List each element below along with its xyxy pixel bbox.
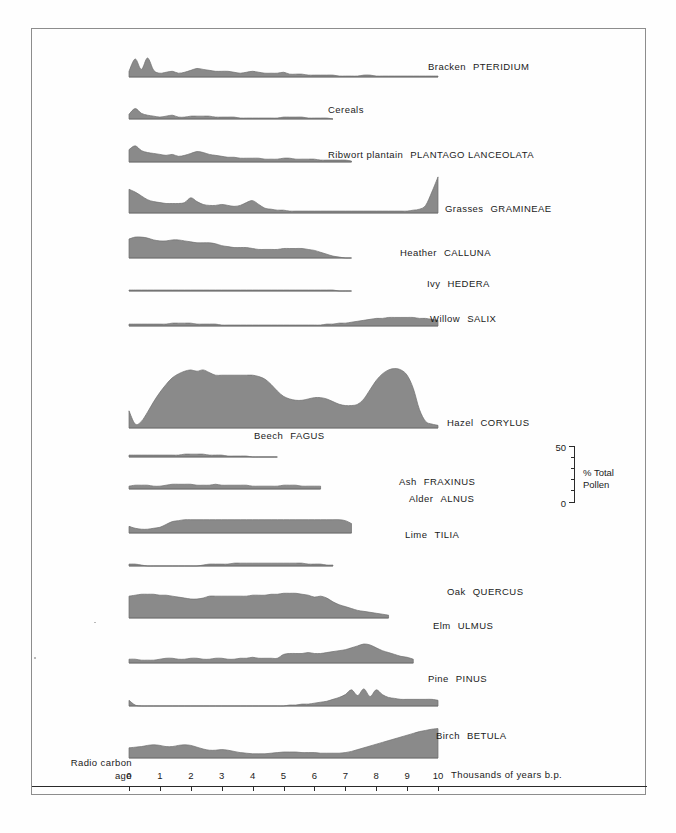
axis-tick-0 [129, 786, 130, 791]
axis-tick-label-0: 0 [126, 770, 131, 781]
axis-tick-label-5: 5 [281, 770, 286, 781]
axis-tick-label-4: 4 [250, 770, 255, 781]
axis-tick-label-8: 8 [374, 770, 379, 781]
axis-right-label: Thousands of years b.p. [451, 769, 562, 780]
axis-left-label-line2: age [52, 769, 132, 782]
diagram-frame: BrackenPTERIDIUMCerealsRibwort plantainP… [31, 28, 646, 795]
axis-left-label: Radio carbon age [52, 756, 132, 782]
axis-tick-3 [222, 786, 223, 791]
axis-tick-label-3: 3 [219, 770, 224, 781]
axis-tick-5 [284, 786, 285, 791]
axis-tick-7 [345, 786, 346, 791]
axis-tick-label-10: 10 [433, 770, 444, 781]
axis-tick-8 [376, 786, 377, 791]
axis-line [32, 786, 647, 787]
axis-tick-label-1: 1 [157, 770, 162, 781]
axis-left-label-line1: Radio carbon [52, 756, 132, 769]
axis-tick-label-2: 2 [188, 770, 193, 781]
x-axis: Radio carbon age Thousands of years b.p.… [32, 29, 647, 796]
axis-tick-10 [438, 786, 439, 791]
axis-tick-4 [253, 786, 254, 791]
axis-tick-9 [407, 786, 408, 791]
axis-tick-6 [314, 786, 315, 791]
axis-tick-label-6: 6 [312, 770, 317, 781]
speck-a [94, 622, 96, 623]
axis-tick-1 [160, 786, 161, 791]
axis-tick-2 [191, 786, 192, 791]
speck-b [34, 657, 36, 659]
axis-tick-label-9: 9 [404, 770, 409, 781]
axis-tick-label-7: 7 [343, 770, 348, 781]
